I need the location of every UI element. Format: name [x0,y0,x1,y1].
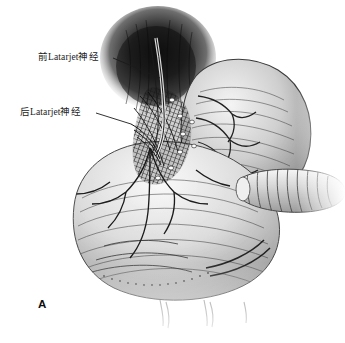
figure-panel-letter: A [38,299,46,311]
label-anterior-latarjet-nerve: 前Latarjet神经 [38,53,99,63]
label-posterior-latarjet-nerve: 后Latarjet神经 [20,108,81,118]
surgical-illustration-figure: 前Latarjet神经 后Latarjet神经 A [0,0,345,343]
right-fade [296,0,345,343]
